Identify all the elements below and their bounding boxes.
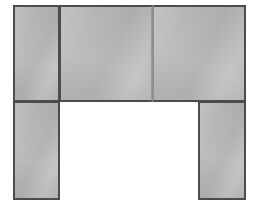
bottom-left-rect	[13, 101, 60, 200]
top-center-rect	[59, 5, 153, 102]
bottom-right-rect	[198, 101, 246, 200]
figure-canvas	[0, 0, 256, 223]
top-left-rect	[13, 5, 60, 102]
top-right-rect	[152, 5, 246, 102]
